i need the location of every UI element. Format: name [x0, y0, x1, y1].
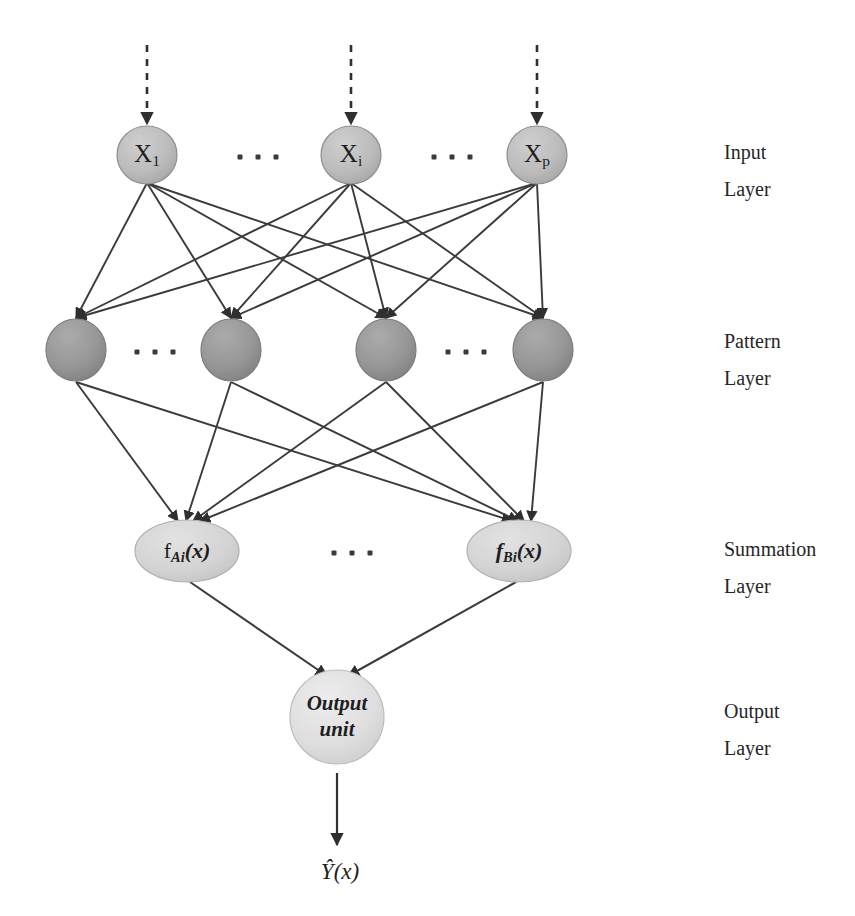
edge-p2-sB	[231, 382, 518, 521]
layer-caption-pattern-line2: Layer	[724, 360, 781, 397]
edge-xp-p4	[537, 183, 543, 318]
edges-summation-to-output	[190, 582, 516, 676]
input-node-xp[interactable]	[507, 126, 567, 184]
pattern-node-2[interactable]	[201, 319, 261, 381]
layer-caption-output-line2: Layer	[724, 730, 780, 767]
edge-sA-output	[190, 582, 327, 676]
edge-x1-p3	[147, 183, 386, 318]
pattern-node-1[interactable]	[46, 319, 106, 381]
edge-p1-sB	[76, 382, 512, 521]
input-layer-nodes	[117, 126, 567, 184]
pattern-layer-nodes	[46, 319, 573, 381]
edges-pattern-to-summation	[76, 382, 543, 521]
edge-x1-p1	[76, 183, 147, 318]
edge-p1-sA	[76, 382, 178, 521]
layer-caption-output: Output Layer	[724, 693, 780, 767]
layer-caption-summation: Summation Layer	[724, 531, 816, 605]
layer-caption-pattern-line1: Pattern	[724, 323, 781, 360]
edge-xp-p2	[231, 183, 537, 318]
layer-caption-input-line1: Input	[724, 134, 771, 171]
edges-input-to-pattern	[76, 183, 543, 318]
input-node-xi[interactable]	[321, 126, 381, 184]
edge-sB-output	[348, 582, 516, 676]
edge-x1-p4	[147, 183, 543, 318]
edge-p4-sA	[200, 382, 543, 521]
summation-node-a[interactable]	[135, 520, 239, 582]
edge-p2-sA	[186, 382, 231, 521]
layer-caption-pattern: Pattern Layer	[724, 323, 781, 397]
edge-p4-sB	[531, 382, 543, 521]
edge-p3-sA	[193, 382, 386, 521]
summation-node-b[interactable]	[467, 520, 571, 582]
neural-network-diagram: X1 Xi Xp fAi(x) fBi(x) Output unit Ŷ(x)	[0, 0, 855, 916]
edge-p3-sB	[386, 382, 524, 521]
layer-caption-input-line2: Layer	[724, 171, 771, 208]
edge-x1-p2	[147, 183, 231, 318]
pattern-node-4[interactable]	[513, 319, 573, 381]
input-node-x1[interactable]	[117, 126, 177, 184]
edge-xi-p2	[231, 183, 351, 318]
output-layer-node	[290, 670, 384, 764]
layer-caption-output-line1: Output	[724, 693, 780, 730]
layer-caption-input: Input Layer	[724, 134, 771, 208]
input-feed-arrows	[147, 45, 537, 124]
summation-layer-nodes	[135, 520, 571, 582]
layer-caption-summation-line2: Layer	[724, 568, 816, 605]
layer-caption-summation-line1: Summation	[724, 531, 816, 568]
edge-xp-p1	[76, 183, 537, 318]
pattern-node-3[interactable]	[356, 319, 416, 381]
output-unit-node[interactable]	[290, 670, 384, 764]
